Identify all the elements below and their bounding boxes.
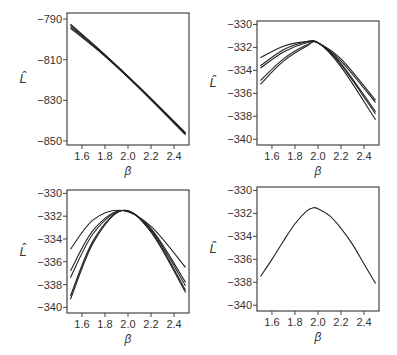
x-tick-label: 2.4: [356, 150, 371, 162]
y-tick-label: −334: [227, 64, 252, 76]
panel-top-left: 1.61.82.02.22.4−790−810−830−850βL̂: [19, 13, 189, 178]
x-tick-label: 1.8: [97, 150, 112, 162]
y-tick-label: −334: [227, 230, 252, 242]
y-tick-label: −332: [37, 210, 62, 222]
plot-frame: [67, 190, 189, 313]
y-tick-label: −336: [227, 87, 252, 99]
y-tick-label: −790: [37, 13, 62, 25]
y-tick-label: −336: [37, 256, 62, 268]
x-tick-label: 2.4: [166, 150, 181, 162]
y-axis-label: L̂: [19, 71, 27, 86]
x-tick-label: 1.8: [97, 318, 112, 330]
panel-bottom-right: 1.61.82.02.22.4−330−332−334−336−338−340β…: [209, 184, 379, 344]
y-axis-label: L̂: [209, 75, 217, 90]
series-line-curve1: [260, 41, 375, 100]
plot-frame: [257, 187, 379, 311]
x-tick-label: 2.2: [143, 318, 158, 330]
x-tick-label: 2.4: [356, 316, 371, 328]
x-tick-label: 1.6: [74, 150, 89, 162]
x-tick-label: 2.0: [310, 316, 325, 328]
x-tick-label: 1.6: [74, 318, 89, 330]
y-tick-label: −330: [227, 184, 252, 196]
y-axis-label: L̂: [19, 243, 27, 258]
y-tick-label: −830: [37, 94, 62, 106]
series-line-curve1: [260, 207, 375, 283]
x-tick-label: 2.2: [143, 150, 158, 162]
x-axis-label: β: [314, 330, 322, 344]
x-tick-label: 1.8: [287, 150, 302, 162]
series-line-curve3: [260, 41, 375, 112]
figure: 1.61.82.02.22.4−790−810−830−850βL̂1.61.8…: [0, 0, 397, 355]
y-tick-label: −330: [227, 18, 252, 30]
plot-frame: [67, 13, 189, 145]
y-tick-label: −334: [37, 233, 62, 245]
y-tick-label: −330: [37, 187, 62, 199]
y-tick-label: −340: [37, 301, 62, 313]
y-tick-label: −332: [227, 207, 252, 219]
series-line-curve3: [70, 210, 185, 285]
x-tick-label: 2.0: [310, 150, 325, 162]
series-line-curve4: [70, 28, 185, 135]
plot-frame: [257, 21, 379, 145]
y-tick-label: −332: [227, 41, 252, 53]
x-tick-label: 2.2: [333, 316, 348, 328]
y-tick-label: −336: [227, 253, 252, 265]
panel-bottom-left: 1.61.82.02.22.4−330−332−334−336−338−340β…: [19, 187, 189, 346]
x-axis-label: β: [124, 332, 132, 346]
x-tick-label: 2.4: [166, 318, 181, 330]
x-tick-label: 2.2: [333, 150, 348, 162]
x-tick-label: 2.0: [120, 150, 135, 162]
series-line-curve4: [260, 41, 375, 114]
x-tick-label: 2.0: [120, 318, 135, 330]
x-tick-label: 1.6: [264, 316, 279, 328]
y-tick-label: −338: [227, 110, 252, 122]
y-tick-label: −340: [227, 133, 252, 145]
y-tick-label: −338: [227, 276, 252, 288]
x-tick-label: 1.8: [287, 316, 302, 328]
y-axis-label: L̂: [209, 241, 217, 256]
panel-top-right: 1.61.82.02.22.4−330−332−334−336−338−340β…: [209, 18, 379, 178]
x-axis-label: β: [124, 164, 132, 178]
y-tick-label: −338: [37, 279, 62, 291]
y-tick-label: −810: [37, 54, 62, 66]
y-tick-label: −850: [37, 135, 62, 147]
y-tick-label: −340: [227, 299, 252, 311]
x-axis-label: β: [314, 164, 322, 178]
x-tick-label: 1.6: [264, 150, 279, 162]
